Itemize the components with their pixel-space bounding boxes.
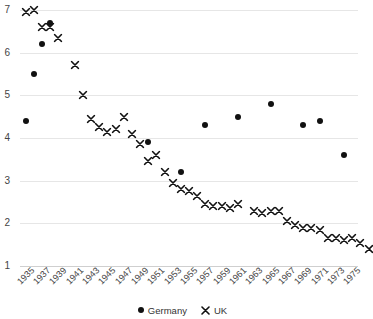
legend-item-germany[interactable]: Germany	[138, 305, 187, 316]
data-point-uk	[70, 61, 79, 70]
plot-area: 7654321	[20, 10, 358, 266]
y-tick-label: 5	[0, 90, 10, 100]
data-point-uk	[46, 23, 55, 32]
legend-label: UK	[214, 305, 227, 316]
data-point-uk	[111, 125, 120, 134]
data-point-uk	[136, 140, 145, 149]
legend-x-icon	[201, 306, 210, 315]
data-point-uk	[152, 151, 161, 160]
data-point-uk	[54, 33, 63, 42]
data-point-germany	[235, 114, 241, 120]
data-point-uk	[274, 206, 283, 215]
y-gridline	[20, 181, 358, 182]
data-point-uk	[29, 6, 38, 15]
data-point-germany	[341, 152, 347, 158]
data-point-uk	[233, 200, 242, 209]
data-point-germany	[145, 139, 151, 145]
y-gridline	[20, 95, 358, 96]
chart-legend: GermanyUK	[0, 302, 365, 318]
y-tick-label: 2	[0, 218, 10, 228]
y-tick-label: 6	[0, 48, 10, 58]
data-point-germany	[202, 122, 208, 128]
data-point-germany	[178, 169, 184, 175]
x-tick-label: 1975	[342, 266, 363, 287]
data-point-uk	[119, 112, 128, 121]
data-point-germany	[39, 41, 45, 47]
data-point-uk	[364, 244, 373, 253]
data-point-uk	[160, 168, 169, 177]
y-tick-label: 3	[0, 176, 10, 186]
data-point-germany	[317, 118, 323, 124]
y-gridline	[20, 138, 358, 139]
legend-dot-icon	[138, 307, 144, 313]
data-point-uk	[127, 129, 136, 138]
data-point-germany	[31, 71, 37, 77]
y-gridline	[20, 53, 358, 54]
data-point-uk	[78, 91, 87, 100]
data-point-germany	[23, 118, 29, 124]
y-gridline	[20, 10, 358, 11]
legend-label: Germany	[148, 305, 187, 316]
x-axis: 1935193719391941194319451947194919511953…	[20, 266, 358, 302]
data-point-germany	[300, 122, 306, 128]
data-point-germany	[268, 101, 274, 107]
y-tick-label: 7	[0, 5, 10, 15]
legend-item-uk[interactable]: UK	[201, 305, 227, 316]
y-tick-label: 4	[0, 133, 10, 143]
y-tick-label: 1	[0, 261, 10, 271]
